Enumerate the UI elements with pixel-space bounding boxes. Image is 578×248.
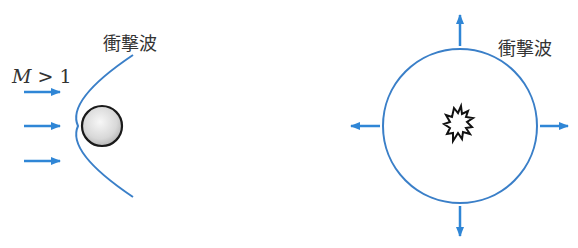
explosion-icon (444, 106, 473, 141)
right-shock-label: 衝撃波 (498, 34, 552, 60)
flow-arrows (24, 92, 60, 161)
left-shock-label: 衝撃波 (103, 29, 157, 55)
mach-symbol: M (12, 65, 31, 87)
diagram-canvas (0, 0, 578, 248)
mach-number-label: M > 1 (12, 65, 72, 87)
mach-relation: > 1 (31, 65, 71, 87)
sphere-object (82, 106, 122, 146)
